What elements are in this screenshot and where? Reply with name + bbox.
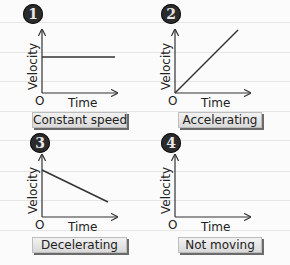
panel-2-axes	[175, 30, 250, 93]
panel-4-caption: Not moving	[178, 237, 262, 253]
panel-4-x-axis-label: Time	[201, 220, 230, 234]
panel-1-number-badge: 1	[23, 4, 43, 24]
panel-4-number-badge: 4	[161, 133, 181, 153]
panel-1-y-axis-label: Velocity	[26, 43, 40, 90]
panel-3-origin-label: O	[35, 218, 44, 232]
panel-3-caption: Decelerating	[32, 237, 127, 253]
panel-1-x-axis-label: Time	[68, 96, 97, 110]
panel-3-y-axis-label: Velocity	[26, 167, 40, 214]
panel-4-axes	[175, 155, 250, 217]
panel-3-number-badge: 3	[30, 133, 50, 153]
panel-2-caption: Accelerating	[178, 112, 262, 128]
panel-2-y-axis-label: Velocity	[159, 43, 173, 90]
decelerating-line	[42, 170, 108, 202]
panel-4-origin-label: O	[168, 218, 177, 232]
panel-1-caption: Constant speed	[32, 112, 127, 128]
panel-2-origin-label: O	[168, 94, 177, 108]
panel-3-x-axis-label: Time	[68, 220, 97, 234]
panel-3-axes	[42, 155, 117, 217]
panel-1-axes	[42, 30, 117, 93]
panel-4-y-axis-label: Velocity	[159, 167, 173, 214]
panel-1-origin-label: O	[35, 94, 44, 108]
accelerating-line	[175, 30, 238, 93]
panel-2-number-badge: 2	[161, 4, 181, 24]
panel-2-x-axis-label: Time	[201, 96, 230, 110]
